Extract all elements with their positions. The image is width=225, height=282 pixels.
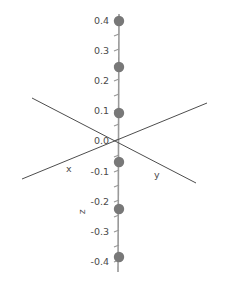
z-tick-label-7: -0.3 [72, 227, 109, 237]
y-axis-label: y [154, 170, 160, 180]
z-tick-label-0: 0.4 [75, 16, 109, 26]
z-tick-label-3: 0.1 [75, 106, 109, 116]
scatter-plot-3d: 0.4 0.3 0.2 0.1 0.0 -0.1 -0.2 -0.3 -0.4 … [0, 0, 225, 282]
z-tick-label-1: 0.3 [75, 46, 109, 56]
z-tick-label-6: -0.2 [72, 197, 109, 207]
data-point [114, 252, 124, 262]
plot-canvas [0, 0, 225, 282]
data-point [114, 62, 124, 72]
z-tick-label-5: -0.1 [72, 167, 109, 177]
data-point [114, 16, 124, 26]
z-tick-label-4: 0.0 [75, 136, 109, 146]
data-point [114, 204, 124, 214]
x-axis-label: x [66, 164, 72, 174]
data-point [114, 157, 124, 167]
z-tick-label-2: 0.2 [75, 76, 109, 86]
z-tick-label-8: -0.4 [72, 257, 109, 267]
z-axis-label: z [77, 209, 87, 214]
data-point [114, 108, 124, 118]
